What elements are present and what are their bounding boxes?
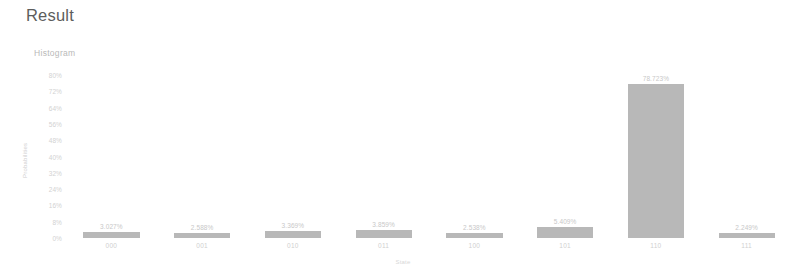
bar-series: 3.027%2.588%3.369%3.859%2.538%5.409%78.7… [66,75,792,238]
x-axis-tick: 101 [520,242,611,249]
x-axis-tick: 111 [701,242,792,249]
x-axis-title: State [0,259,806,265]
page-title: Result [26,6,74,25]
bar[interactable] [446,233,502,238]
y-axis-tick: 0% [52,235,62,242]
x-axis-tick: 010 [248,242,339,249]
y-axis-tick: 8% [52,218,62,225]
y-axis-tick-labels: 0%8%16%24%32%40%48%56%64%72%80% [30,75,62,238]
bar-value-label: 78.723% [643,75,669,82]
histogram-panel-label: Histogram [34,48,75,58]
y-axis-tick: 64% [49,104,62,111]
y-axis-tick: 56% [49,120,62,127]
bar[interactable] [356,230,412,238]
bar[interactable] [537,227,593,238]
y-axis-title: Probabilities [22,143,28,178]
bar-slot: 2.588% [157,75,248,238]
bar-slot: 78.723% [611,75,702,238]
y-axis-tick: 40% [49,153,62,160]
x-axis-tick: 100 [429,242,520,249]
bar-slot: 3.369% [248,75,339,238]
bar-value-label: 2.249% [735,224,758,231]
bar-value-label: 2.588% [191,224,214,231]
y-axis-tick: 24% [49,186,62,193]
bar-value-label: 3.027% [100,223,123,230]
bar-slot: 3.859% [338,75,429,238]
x-axis-tick: 011 [338,242,429,249]
x-axis-tick: 110 [611,242,702,249]
bar-slot: 5.409% [520,75,611,238]
bar[interactable] [265,231,321,238]
bar-value-label: 2.538% [463,224,486,231]
bar[interactable] [174,233,230,238]
bar[interactable] [628,84,684,238]
bar-value-label: 3.369% [282,222,305,229]
y-axis-tick: 72% [49,88,62,95]
bar[interactable] [83,232,139,238]
bar[interactable] [719,233,775,238]
x-axis-tick-labels: 000001010011100101110111 [66,242,792,249]
bar-slot: 3.027% [66,75,157,238]
x-axis-tick: 000 [66,242,157,249]
x-axis-tick: 001 [157,242,248,249]
y-axis-tick: 32% [49,169,62,176]
y-axis-tick: 80% [49,72,62,79]
y-axis-tick: 48% [49,137,62,144]
bar-value-label: 5.409% [554,218,577,225]
bar-slot: 2.538% [429,75,520,238]
bar-value-label: 3.859% [372,221,395,228]
plot-area: 3.027%2.588%3.369%3.859%2.538%5.409%78.7… [66,75,792,238]
y-axis-tick: 16% [49,202,62,209]
histogram-chart: Probabilities 0%8%16%24%32%40%48%56%64%7… [0,60,806,280]
bar-slot: 2.249% [701,75,792,238]
